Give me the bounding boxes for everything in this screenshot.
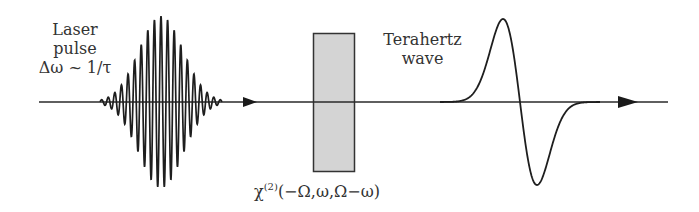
laser-label-line1: Laser: [30, 20, 120, 39]
susceptibility-label: χ(2)(−Ω,ω,Ω−ω): [254, 177, 380, 201]
laser-pulse-label: Laser pulse Δω ~ 1/τ: [30, 20, 120, 77]
chi-symbol: χ: [254, 182, 264, 201]
chi-arguments: (−Ω,ω,Ω−ω): [278, 182, 380, 201]
thz-label-line2: wave: [365, 49, 480, 68]
arrowhead-after-pulse: [243, 97, 257, 107]
diagram: Laser pulse Δω ~ 1/τ Terahertz wave χ(2)…: [0, 0, 699, 212]
arrowhead-after-thz: [618, 96, 638, 108]
laser-label-line2: pulse: [30, 39, 120, 58]
terahertz-wave-label: Terahertz wave: [365, 30, 480, 68]
thz-label-line1: Terahertz: [365, 30, 480, 49]
chi-order: (2): [264, 181, 278, 192]
bandwidth-relation: Δω ~ 1/τ: [30, 58, 120, 77]
